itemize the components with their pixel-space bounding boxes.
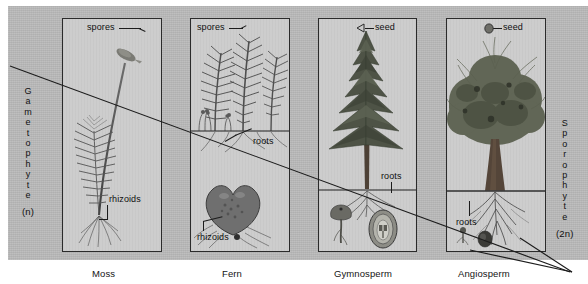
- sporophyte-letter: p: [562, 128, 567, 138]
- sporophyte-letter: t: [564, 201, 567, 211]
- sporophyte-letter: o: [562, 139, 567, 149]
- angiosperm-label-seed: seed: [503, 22, 523, 32]
- gymnosperm-seed-glyph: [355, 23, 367, 35]
- gametophyte-letter: p: [26, 148, 31, 158]
- moss-label-spores: spores: [87, 22, 115, 32]
- gametophyte-ploidy: (n): [22, 207, 34, 217]
- caption-moss: Moss: [92, 268, 115, 279]
- sporophyte-ploidy: (2n): [556, 229, 574, 239]
- gametophyte-letter: e: [26, 117, 31, 127]
- angiosperm-seed-glyph: [483, 22, 495, 35]
- fern-label-spores: spores: [197, 22, 225, 32]
- panel-fern: spores roots rhizoids: [190, 18, 290, 252]
- moss-rhizoids-leader-h: [99, 219, 108, 220]
- fern-label-roots: roots: [253, 136, 274, 146]
- gametophyte-letter: e: [26, 190, 31, 200]
- gymnosperm-label-roots: roots: [381, 171, 402, 181]
- sporophyte-letter: r: [563, 149, 566, 159]
- fern-illustration: [191, 19, 289, 251]
- gametophyte-letter: t: [27, 180, 30, 190]
- caption-angiosperm: Angiosperm: [458, 268, 510, 279]
- gymnosperm-label-seed: seed: [375, 22, 395, 32]
- gametophyte-letter: t: [27, 128, 30, 138]
- angiosperm-label-roots: roots: [456, 217, 477, 227]
- gametophyte-letter: y: [26, 169, 31, 179]
- gametophyte-letter: G: [25, 86, 32, 96]
- panel-moss: spores rhizoids: [62, 18, 162, 252]
- sporophyte-letter: y: [563, 191, 568, 201]
- fern-label-rhizoids: rhizoids: [197, 232, 229, 242]
- sporophyte-letter: h: [562, 180, 567, 190]
- panel-angiosperm: seed roots: [446, 18, 546, 252]
- fern-rhizoids-leader-v: [203, 221, 204, 231]
- gametophyte-axis-label: G a m e t o p h y t e (n): [22, 86, 34, 218]
- angiosperm-roots-leader: [469, 201, 470, 216]
- figure-root: spores rhizoids: [0, 0, 588, 284]
- moss-art-svg: [63, 19, 161, 251]
- gametophyte-letter: m: [24, 107, 32, 117]
- gymnosperm-art-svg: [319, 19, 416, 251]
- gametophyte-letter: h: [26, 159, 31, 169]
- caption-gymnosperm: Gymnosperm: [334, 268, 392, 279]
- sporophyte-letter: e: [562, 212, 567, 222]
- moss-label-rhizoids: rhizoids: [109, 194, 141, 204]
- panel-gymnosperm: seed roots: [318, 18, 417, 252]
- gymnosperm-roots-leader: [391, 182, 392, 193]
- gymnosperm-illustration: [319, 19, 416, 251]
- sporophyte-letter: p: [562, 170, 567, 180]
- sporophyte-axis-label: S p o r o p h y t e (2n): [556, 118, 574, 239]
- fern-art-svg: [191, 19, 289, 251]
- gametophyte-letter: o: [26, 138, 31, 148]
- gametophyte-letter: a: [26, 96, 31, 106]
- sporophyte-letter: o: [562, 160, 567, 170]
- sporophyte-letter: S: [562, 118, 568, 128]
- moss-illustration: [63, 19, 161, 251]
- moss-rhizoids-leader-v: [107, 205, 108, 219]
- caption-fern: Fern: [222, 268, 242, 279]
